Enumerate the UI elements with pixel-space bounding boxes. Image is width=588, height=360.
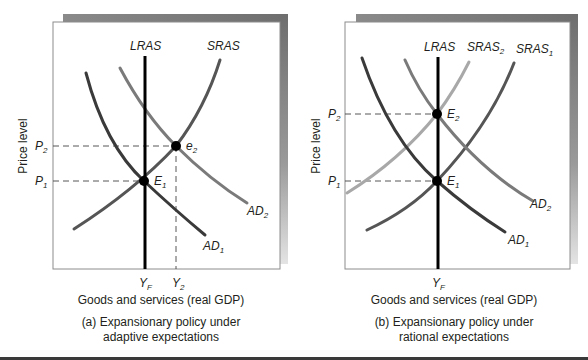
caption-line2: adaptive expectations — [103, 330, 219, 344]
yf-tick: YF — [139, 276, 153, 292]
lras-label: LRAS — [424, 40, 455, 54]
x-axis-title: Goods and services (real GDP) — [78, 293, 245, 307]
sras1-label: SRAS1 — [516, 42, 553, 58]
frame-shadow-right — [280, 14, 288, 264]
y-axis-title: Price level — [309, 118, 323, 173]
point-e1 — [432, 176, 442, 186]
plot-area — [345, 22, 570, 269]
sras2-label: SRAS2 — [467, 40, 505, 56]
x-axis-title: Goods and services (real GDP) — [371, 293, 538, 307]
point-e2 — [171, 141, 181, 151]
y2-tick: Y2 — [172, 276, 185, 292]
sras-label: SRAS — [207, 39, 240, 53]
plot-area — [53, 22, 280, 269]
caption-line1: (a) Expansionary policy under — [82, 315, 241, 329]
caption-line1: (b) Expansionary policy under — [375, 315, 534, 329]
point-e2 — [432, 109, 442, 119]
yf-tick: YF — [432, 276, 446, 292]
y-axis-title: Price level — [16, 118, 30, 173]
lras-label: LRAS — [130, 39, 161, 53]
panel-b: LRAS SRAS2 SRAS1 AD1 AD2 E1 E2 P2 P1 YF … — [309, 14, 578, 344]
panel-a: LRAS SRAS AD1 AD2 E1 e2 P2 P1 YF Y2 Pric… — [16, 14, 288, 344]
point-e1 — [139, 176, 149, 186]
figure-canvas: LRAS SRAS AD1 AD2 E1 e2 P2 P1 YF Y2 Pric… — [0, 0, 588, 360]
p2-tick: P2 — [328, 107, 341, 123]
p1-tick: P1 — [328, 174, 340, 190]
p2-tick: P2 — [35, 139, 48, 155]
p1-tick: P1 — [35, 174, 47, 190]
frame-shadow-right — [570, 14, 578, 264]
caption-line2: rational expectations — [399, 330, 509, 344]
